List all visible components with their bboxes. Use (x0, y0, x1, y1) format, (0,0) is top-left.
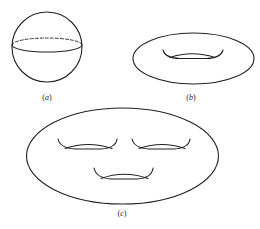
torus-hole-upper-rim (170, 54, 215, 58)
hole-bottom (94, 168, 153, 179)
sphere-equator-front (12, 45, 82, 52)
sphere-outline (12, 12, 82, 82)
hole-left (58, 139, 117, 149)
caption-c: (c) (118, 209, 127, 218)
genus3-diagram (27, 108, 219, 204)
genus3-outline (27, 108, 219, 204)
caption-b: (b) (186, 93, 195, 102)
hole-right (132, 139, 190, 149)
sphere-equator-back (12, 38, 82, 45)
caption-a: (a) (42, 93, 51, 102)
sphere-diagram (12, 12, 82, 82)
torus-diagram (133, 33, 254, 84)
surfaces-figure (0, 0, 260, 229)
